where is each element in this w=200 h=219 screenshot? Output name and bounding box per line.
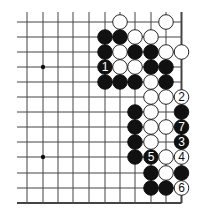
black-stone xyxy=(128,135,143,150)
white-stone xyxy=(159,120,174,135)
white-stone xyxy=(144,30,159,45)
black-stone xyxy=(144,45,159,60)
white-stone xyxy=(128,30,143,45)
black-stone xyxy=(98,75,113,90)
white-stone xyxy=(144,90,159,105)
white-stone xyxy=(113,15,128,30)
white-stone xyxy=(159,166,174,181)
black-stone xyxy=(98,45,113,60)
black-stone xyxy=(128,45,143,60)
black-stone: 1 xyxy=(98,60,113,75)
black-stone xyxy=(174,105,189,120)
black-stone xyxy=(159,181,174,196)
move-number-label: 4 xyxy=(178,150,185,164)
hoshi-point xyxy=(41,155,45,159)
black-stone xyxy=(98,30,113,45)
white-stone xyxy=(144,135,159,150)
hoshi-point xyxy=(41,65,45,69)
move-number-label: 3 xyxy=(178,135,185,149)
move-number-label: 1 xyxy=(102,60,109,74)
white-stone: 2 xyxy=(174,90,189,105)
black-stone xyxy=(159,60,174,75)
go-board-diagram: 1273546 xyxy=(0,0,200,219)
black-stone xyxy=(144,60,159,75)
move-number-label: 2 xyxy=(178,90,185,104)
black-stone: 7 xyxy=(174,120,189,135)
black-stone xyxy=(113,30,128,45)
black-stone xyxy=(128,75,143,90)
black-stone xyxy=(113,75,128,90)
white-stone xyxy=(144,120,159,135)
stones-layer: 1273546 xyxy=(98,15,189,196)
black-stone xyxy=(159,75,174,90)
white-stone xyxy=(159,150,174,165)
white-stone xyxy=(128,60,143,75)
move-number-label: 6 xyxy=(178,181,185,195)
black-stone xyxy=(174,166,189,181)
black-stone xyxy=(144,166,159,181)
black-stone xyxy=(128,150,143,165)
black-stone xyxy=(128,120,143,135)
white-stone xyxy=(144,75,159,90)
white-stone: 4 xyxy=(174,150,189,165)
white-stone xyxy=(144,105,159,120)
white-stone xyxy=(174,45,189,60)
white-stone xyxy=(113,45,128,60)
go-board-svg: 1273546 xyxy=(0,0,200,219)
white-stone xyxy=(159,15,174,30)
move-number-label: 7 xyxy=(178,120,185,134)
white-stone: 6 xyxy=(174,181,189,196)
move-number-label: 5 xyxy=(148,150,155,164)
black-stone xyxy=(144,181,159,196)
black-stone: 3 xyxy=(174,135,189,150)
white-stone xyxy=(113,60,128,75)
white-stone xyxy=(159,90,174,105)
black-stone: 5 xyxy=(144,150,159,165)
black-stone xyxy=(128,105,143,120)
white-stone xyxy=(159,45,174,60)
